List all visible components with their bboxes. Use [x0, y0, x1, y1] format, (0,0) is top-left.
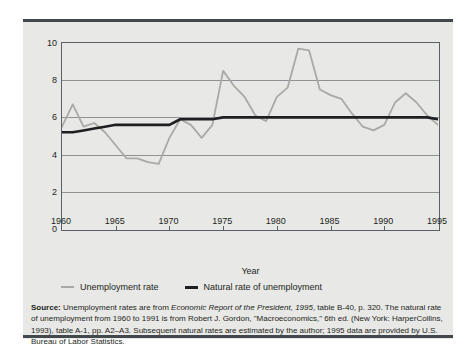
y-tick-label: 4 — [52, 150, 57, 160]
bottom-rule — [23, 335, 453, 338]
y-tick-label: 6 — [52, 112, 57, 122]
x-tick-label: 1970 — [158, 216, 178, 226]
unemployment-chart: Unemployment rate (percent) 0246810 1960… — [23, 23, 453, 245]
x-axis-label: Year — [61, 266, 440, 276]
x-tick-label: 1980 — [266, 216, 286, 226]
figure-container: Unemployment rate (percent) 0246810 1960… — [23, 19, 453, 339]
x-tick-label: 1995 — [427, 216, 447, 226]
legend-item-2: Natural rate of unemployment — [185, 282, 323, 292]
legend-label: Unemployment rate — [80, 282, 159, 292]
source-citation-title: Economic Report of the President, 1995 — [171, 303, 313, 312]
x-tick-label: 1960 — [51, 216, 71, 226]
legend-swatch-icon — [185, 286, 198, 289]
series-line-2 — [62, 117, 438, 132]
series-line-1 — [62, 49, 438, 164]
legend-swatch-icon — [61, 286, 74, 288]
source-note: Source: Unemployment rates are from Econ… — [31, 302, 445, 347]
y-tick-label: 8 — [52, 75, 57, 85]
x-tick-label: 1985 — [320, 216, 340, 226]
legend-label: Natural rate of unemployment — [204, 282, 323, 292]
y-tick-label: 10 — [47, 38, 57, 48]
chart-legend: Unemployment rateNatural rate of unemplo… — [61, 282, 440, 292]
x-tick-label: 1965 — [105, 216, 125, 226]
source-label: Source: — [31, 303, 61, 312]
plot-area: 0246810 — [61, 42, 440, 231]
x-tick-label: 1975 — [212, 216, 232, 226]
source-text-part1: Unemployment rates are from — [61, 303, 171, 312]
top-rule — [23, 19, 453, 22]
legend-item-1: Unemployment rate — [61, 282, 159, 292]
y-tick-label: 2 — [52, 187, 57, 197]
series-svg — [62, 43, 438, 229]
x-tick-label: 1990 — [373, 216, 393, 226]
